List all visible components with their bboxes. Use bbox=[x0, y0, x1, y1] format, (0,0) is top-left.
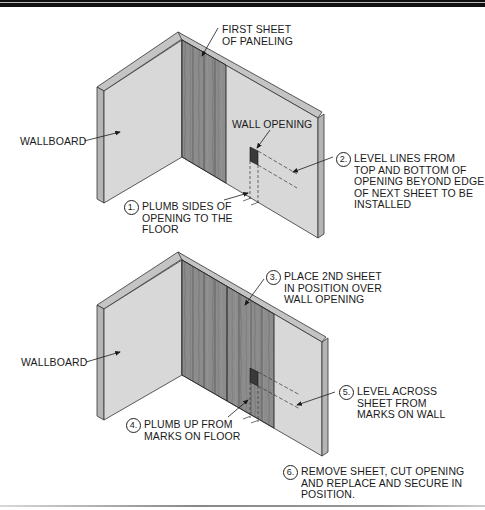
step-number-badge: 3. bbox=[266, 270, 281, 285]
first-sheet-label-line1: FIRST SHEET bbox=[222, 24, 293, 36]
first-sheet-label-line2: OF PANELING bbox=[222, 36, 293, 48]
step-6-line: POSITION. bbox=[301, 489, 464, 501]
step-number-badge: 1. bbox=[124, 200, 139, 215]
step-6-label: 6. REMOVE SHEET, CUT OPENING AND REPLACE… bbox=[283, 466, 464, 501]
step-3-line: PLACE 2ND SHEET bbox=[284, 271, 382, 283]
step-2-line: INSTALLED bbox=[354, 199, 484, 211]
step-2-line: LEVEL LINES FROM bbox=[354, 153, 484, 165]
step-1-line: PLUMB SIDES OF bbox=[142, 201, 233, 213]
step-number-badge: 6. bbox=[283, 465, 298, 480]
step-4-line: PLUMB UP FROM bbox=[144, 419, 241, 431]
step-5-label: 5. LEVEL ACROSS SHEET FROM MARKS ON WALL bbox=[339, 386, 445, 421]
step-number-badge: 2. bbox=[336, 152, 351, 167]
step-3-line: WALL OPENING bbox=[284, 294, 382, 306]
wallboard-label-bottom: WALLBOARD bbox=[21, 357, 87, 369]
first-sheet-label: FIRST SHEET OF PANELING bbox=[222, 24, 293, 47]
bottom-divider bbox=[0, 505, 485, 507]
step-number-badge: 5. bbox=[339, 385, 354, 400]
step-4-label: 4. PLUMB UP FROM MARKS ON FLOOR bbox=[126, 419, 241, 442]
step-2-line: OPENING BEYOND EDGE bbox=[354, 176, 484, 188]
step-number-badge: 4. bbox=[126, 418, 141, 433]
step-2-label: 2. LEVEL LINES FROM TOP AND BOTTOM OF OP… bbox=[336, 153, 484, 211]
step-6-line: REMOVE SHEET, CUT OPENING bbox=[301, 466, 464, 478]
step-5-line: LEVEL ACROSS bbox=[357, 386, 445, 398]
wallboard-label-top: WALLBOARD bbox=[20, 136, 86, 148]
step-4-line: MARKS ON FLOOR bbox=[144, 431, 241, 443]
step-3-label: 3. PLACE 2ND SHEET IN POSITION OVER WALL… bbox=[266, 271, 382, 306]
wall-opening-label: WALL OPENING bbox=[232, 119, 312, 131]
step-1-line: FLOOR bbox=[142, 224, 233, 236]
step-1-label: 1. PLUMB SIDES OF OPENING TO THE FLOOR bbox=[124, 201, 233, 236]
step-5-line: MARKS ON WALL bbox=[357, 409, 445, 421]
paneling-installation-diagram bbox=[0, 0, 485, 510]
